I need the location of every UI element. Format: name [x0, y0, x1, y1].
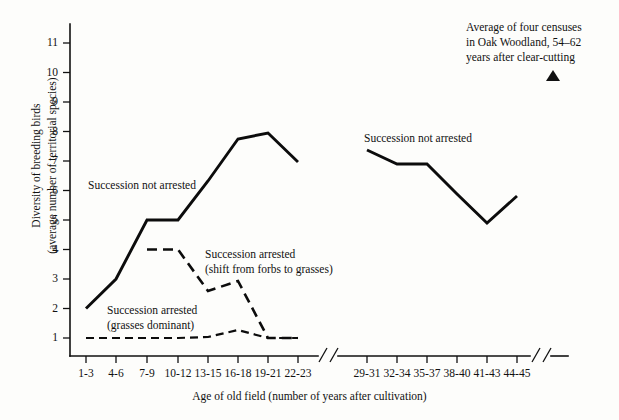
- y-axis-title-line1: Diversity of breeding birds: [29, 41, 45, 291]
- x-tick-label-1-3: 1-3: [78, 367, 93, 380]
- annotation-oak-woodland-line1: Average of four censuses: [466, 20, 616, 35]
- chart-figure: 1 2 3 4 5 6 7 8 9 10 11 1-3 4-6 7-9 10-1…: [0, 0, 619, 420]
- y-axis-title: Diversity of breeding birds (average num…: [29, 41, 60, 291]
- y-tick-label-1: 1: [32, 331, 58, 344]
- x-tick-label-35-37: 35-37: [414, 367, 441, 380]
- annotation-succession-arrested-grasses-line1: Succession arrested: [107, 303, 197, 318]
- x-tick-label-7-9: 7-9: [139, 367, 154, 380]
- axis-break-right: [532, 348, 551, 362]
- x-tick-label-38-40: 38-40: [444, 367, 471, 380]
- x-tick-label-32-34: 32-34: [384, 367, 411, 380]
- y-tick-marks: [63, 43, 70, 338]
- annotation-succession-arrested-forbs-line2: (shift from forbs to grasses): [205, 262, 333, 277]
- x-tick-label-16-18: 16-18: [225, 367, 252, 380]
- x-tick-label-4-6: 4-6: [108, 367, 123, 380]
- x-tick-label-22-23: 22-23: [285, 367, 312, 380]
- triangle-up-marker-icon: [546, 70, 560, 81]
- x-axis-title: Age of old field (number of years after …: [0, 390, 619, 402]
- axis-break-left: [319, 348, 338, 362]
- x-tick-marks-left: [86, 356, 298, 363]
- annotation-succession-arrested-forbs: Succession arrested (shift from forbs to…: [205, 247, 333, 276]
- y-axis-title-line2: (average number of territorial species): [45, 41, 61, 291]
- annotation-oak-woodland-line3: years after clear-cutting: [466, 50, 616, 65]
- series-succession-not-arrested-left: [86, 133, 298, 309]
- annotation-oak-woodland: Average of four censuses in Oak Woodland…: [466, 20, 616, 66]
- x-tick-label-44-45: 44-45: [504, 367, 531, 380]
- annotation-oak-woodland-line2: in Oak Woodland, 54–62: [466, 35, 616, 50]
- x-tick-marks-right: [367, 356, 517, 363]
- x-tick-label-19-21: 19-21: [255, 367, 282, 380]
- annotation-succession-arrested-grasses: Succession arrested (grasses dominant): [107, 303, 197, 332]
- annotation-succession-not-arrested-right: Succession not arrested: [364, 131, 472, 146]
- x-tick-label-41-43: 41-43: [474, 367, 501, 380]
- annotation-succession-arrested-forbs-line1: Succession arrested: [205, 247, 333, 262]
- x-tick-label-10-12: 10-12: [165, 367, 192, 380]
- y-tick-label-2: 2: [32, 302, 58, 315]
- annotation-succession-arrested-grasses-line2: (grasses dominant): [107, 318, 197, 333]
- x-tick-label-29-31: 29-31: [354, 367, 381, 380]
- x-tick-label-13-15: 13-15: [195, 367, 222, 380]
- annotation-succession-not-arrested-left: Succession not arrested: [88, 178, 196, 193]
- series-succession-not-arrested-right: [367, 150, 517, 223]
